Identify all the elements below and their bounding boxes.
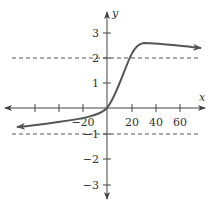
y-tick-label-1: 1 xyxy=(92,77,99,90)
chart: −20 20 40 60 3 2 1 −1 −2 −3 y x xyxy=(0,0,210,202)
curve-right-branch xyxy=(107,43,201,108)
x-tick-label-40: 40 xyxy=(149,116,163,129)
x-tick-label-20: 20 xyxy=(125,116,139,129)
y-tick-label-2: 2 xyxy=(92,52,99,65)
x-tick-label-60: 60 xyxy=(173,116,187,129)
x-axis-label: x xyxy=(199,91,206,104)
y-tick-label-minus-2: −2 xyxy=(83,153,99,166)
y-tick-label-3: 3 xyxy=(92,27,99,40)
y-axis-label: y xyxy=(111,7,119,20)
y-tick-label-minus-3: −3 xyxy=(83,179,99,192)
y-tick-label-minus-1: −1 xyxy=(83,128,99,141)
